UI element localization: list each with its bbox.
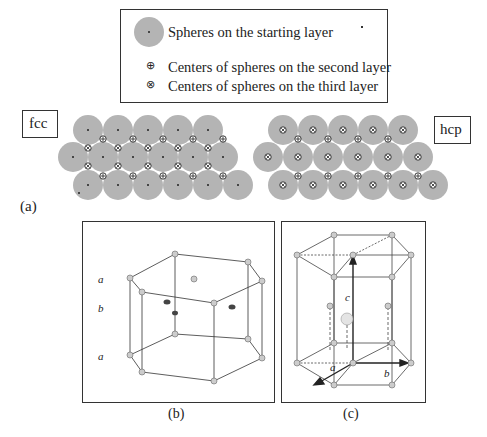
axis-label-b: b bbox=[384, 367, 390, 379]
axis-label-a: a bbox=[330, 361, 336, 373]
stray-mark bbox=[361, 26, 363, 28]
fcc-label: fcc bbox=[29, 115, 47, 132]
panel-b-label: (b) bbox=[168, 406, 184, 422]
hcp-label: hcp bbox=[440, 121, 462, 138]
panel-b-box bbox=[82, 221, 275, 403]
panel-c-box bbox=[281, 221, 426, 403]
axis-label-c: c bbox=[345, 291, 350, 303]
legend-sphere-icon bbox=[134, 17, 164, 47]
layer-label-b: b bbox=[98, 302, 104, 314]
hcp-label-box: hcp bbox=[434, 116, 471, 144]
layer-label-a-top: a bbox=[98, 273, 104, 285]
panel-c-label: (c) bbox=[343, 406, 359, 422]
layer-label-a-bottom: a bbox=[98, 350, 104, 362]
legend-item-second-layer: Centers of spheres on the second layer bbox=[168, 59, 391, 75]
legend-item-third-layer: Centers of spheres on the third layer bbox=[168, 78, 378, 94]
fcc-label-box: fcc bbox=[22, 110, 58, 138]
circle-cross-icon: ⊗ bbox=[146, 78, 155, 91]
circle-plus-icon: ⊕ bbox=[146, 59, 155, 72]
legend-item-starting-layer: Spheres on the starting layer bbox=[168, 24, 333, 40]
legend-box: Spheres on the starting layer ⊕ Centers … bbox=[120, 9, 388, 103]
panel-a-label: (a) bbox=[20, 198, 37, 215]
